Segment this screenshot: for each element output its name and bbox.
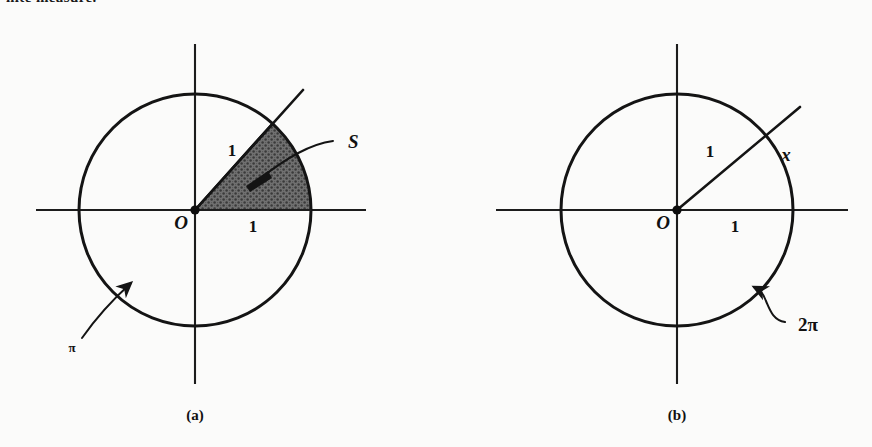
panel-a-origin-dot [190,205,199,214]
panel-a-pi-label: π [68,340,75,355]
panel-b-origin-dot [672,205,681,214]
unit-circle-figure: O 1 1 S π (a) O 1 [0,0,872,447]
shaded-sector-S [195,124,311,210]
panel-b-x-unit-label: 1 [731,217,740,236]
panel-a-origin-label: O [174,212,188,233]
panel-b: O 1 1 x 2π (b) [496,44,848,424]
panel-a-sector-label: S [348,131,359,152]
panel-b-2pi-label: 2π [798,314,819,335]
panel-b-arc-label: x [780,144,791,165]
panel-b-origin-label: O [656,212,670,233]
panel-a-radius-label: 1 [228,141,237,160]
panel-a-caption: (a) [186,407,204,424]
panel-a: O 1 1 S π (a) [36,44,366,424]
panel-a-x-unit-label: 1 [249,217,258,236]
panel-b-caption: (b) [668,407,686,424]
panel-a-pi-leader [82,283,131,338]
panel-b-radius-label: 1 [706,142,715,161]
figure-root: nite measure. [0,0,872,447]
